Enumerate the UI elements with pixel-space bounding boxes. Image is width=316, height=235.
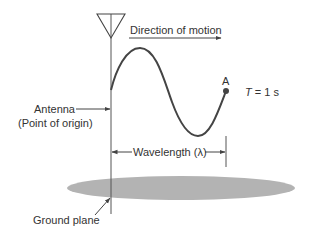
origin-label: (Point of origin) [18, 117, 93, 129]
period-value: = 1 s [252, 86, 279, 98]
point-a-label: A [222, 75, 229, 87]
direction-label: Direction of motion [130, 24, 222, 36]
point-a-dot [223, 88, 229, 94]
ground-plane-arrow [95, 198, 110, 215]
antenna-label: Antenna [34, 103, 75, 115]
period-variable: T [245, 86, 252, 98]
wavelength-label: Wavelength (λ) [133, 146, 207, 158]
sine-wave [111, 48, 226, 136]
period-label: T = 1 s [245, 86, 279, 98]
ground-plane-ellipse [67, 176, 295, 200]
ground-plane-label: Ground plane [33, 214, 100, 226]
